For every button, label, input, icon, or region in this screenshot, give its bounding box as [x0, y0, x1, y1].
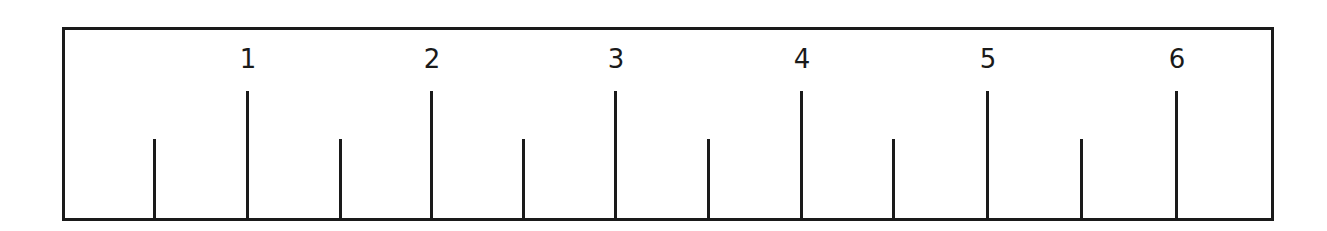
tick-label-1: 1: [228, 46, 268, 72]
tick-label-5: 5: [968, 46, 1008, 72]
major-tick-5: [986, 91, 989, 218]
tick-label-2: 2: [412, 46, 452, 72]
major-tick-2: [430, 91, 433, 218]
major-tick-3: [614, 91, 617, 218]
tick-label-3: 3: [596, 46, 636, 72]
major-tick-1: [246, 91, 249, 218]
ruler: 1 2 3 4 5 6: [62, 27, 1274, 221]
minor-tick-3-5: [707, 139, 710, 218]
tick-label-4: 4: [782, 46, 822, 72]
minor-tick-2-5: [522, 139, 525, 218]
tick-label-6: 6: [1157, 46, 1197, 72]
major-tick-6: [1175, 91, 1178, 218]
major-tick-4: [800, 91, 803, 218]
minor-tick-0-5: [153, 139, 156, 218]
minor-tick-5-5: [1080, 139, 1083, 218]
minor-tick-1-5: [339, 139, 342, 218]
minor-tick-4-5: [892, 139, 895, 218]
